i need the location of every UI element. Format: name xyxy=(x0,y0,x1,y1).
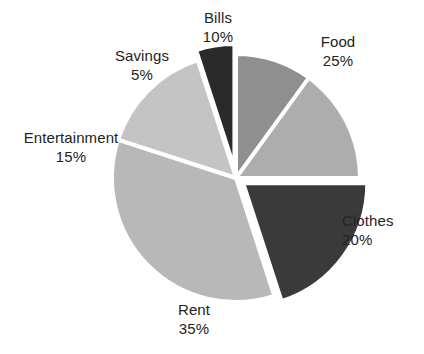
pie-label-savings: Savings 5% xyxy=(96,46,188,84)
pie-label-savings-value: 5% xyxy=(96,65,188,84)
pie-label-clothes-name: Clothes xyxy=(342,211,420,230)
pie-label-clothes: Clothes 20% xyxy=(342,211,420,249)
pie-label-entertainment-value: 15% xyxy=(10,147,132,166)
pie-label-food-name: Food xyxy=(300,32,376,51)
pie-label-rent: Rent 35% xyxy=(156,300,232,338)
pie-label-rent-name: Rent xyxy=(156,300,232,319)
pie-label-entertainment-name: Entertainment xyxy=(10,128,132,147)
pie-label-savings-name: Savings xyxy=(96,46,188,65)
pie-label-clothes-value: 20% xyxy=(342,230,420,249)
pie-label-bills-value: 10% xyxy=(176,27,260,46)
pie-label-entertainment: Entertainment 15% xyxy=(10,128,132,166)
pie-label-rent-value: 35% xyxy=(156,319,232,338)
pie-label-bills-name: Bills xyxy=(176,8,260,27)
pie-label-food: Food 25% xyxy=(300,32,376,70)
pie-chart: Bills 10% Food 25% Savings 5% Entertainm… xyxy=(0,0,424,354)
pie-label-bills: Bills 10% xyxy=(176,8,260,46)
pie-label-food-value: 25% xyxy=(300,51,376,70)
